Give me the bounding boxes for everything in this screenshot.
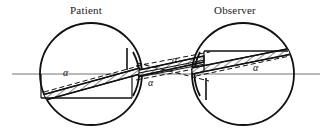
angle-alpha-patient-label: α <box>63 68 68 78</box>
observer-label: Observer <box>214 4 256 16</box>
angle-alpha-mid-lower-label: α <box>148 78 153 88</box>
angle-alpha-observer-label: α <box>253 63 258 73</box>
angle-alpha-mid-upper-label: α <box>172 55 177 65</box>
angle-alpha-figure: Patient Observer α α α α <box>0 0 328 134</box>
patient-label: Patient <box>70 4 102 16</box>
optical-diagram-svg <box>0 0 328 134</box>
